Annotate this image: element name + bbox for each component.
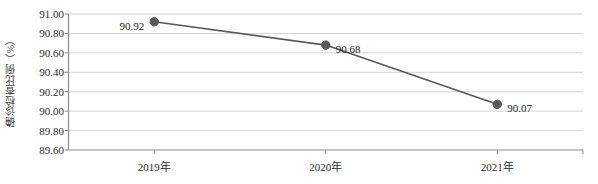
line-chart: 确诊检查比例（%） 91.0090.8090.6090.4090.2090.00…	[0, 0, 598, 184]
x-axis-tick-labels: 2019年2020年2021年	[0, 0, 598, 184]
x-axis-tick-label: 2021年	[481, 162, 514, 173]
x-axis-tick-label: 2019年	[138, 162, 171, 173]
x-axis-tick-label: 2020年	[309, 162, 342, 173]
